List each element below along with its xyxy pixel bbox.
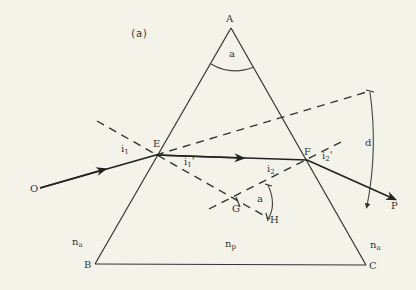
prism-base-bc [95, 264, 366, 265]
incident-extension [156, 91, 370, 155]
point-p-label: P [391, 200, 398, 211]
medium-prism-label: np [225, 238, 236, 251]
point-g-label: G [232, 203, 240, 214]
emergent-ray [307, 160, 392, 198]
normal-at-e [97, 121, 270, 219]
point-f-label: F [304, 146, 311, 157]
angle-i2-label: i2 [267, 163, 275, 176]
point-o-label: O [30, 183, 38, 194]
prism-refraction-diagram: (a) A B C E F G H O P a a d i1 i1' i2 i2… [0, 0, 416, 290]
deviation-label: d [365, 137, 372, 148]
prism-side-ab [95, 28, 231, 264]
h-tick [266, 213, 268, 221]
point-b-label: B [84, 259, 91, 270]
prism-side-ac [231, 28, 366, 265]
point-a-label: A [225, 13, 234, 24]
point-h-label: H [270, 214, 279, 225]
refracted-ray-arrow [156, 155, 240, 158]
angle-i1-label: i1 [121, 143, 129, 156]
apex-angle-arc [211, 64, 254, 71]
incident-ray-arrow [40, 170, 102, 188]
angle-i1-prime-label: i1' [184, 155, 194, 169]
angle-i2-prime-label: i2' [322, 149, 332, 163]
medium-right-label: na [370, 239, 381, 252]
point-e-label: E [153, 138, 160, 149]
extension-end-tick [366, 90, 374, 92]
medium-left-label: na [72, 236, 83, 249]
gh-angle-label: a [257, 193, 263, 204]
point-c-label: C [369, 260, 377, 271]
apex-angle-label: a [229, 48, 235, 59]
figure-label: (a) [130, 28, 148, 39]
